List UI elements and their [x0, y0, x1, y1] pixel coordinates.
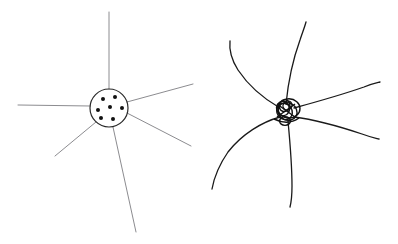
- hub-dot-7: [111, 117, 115, 121]
- figure-root: [0, 0, 398, 244]
- hub-dot-1: [101, 97, 105, 101]
- hub-dot-6: [99, 116, 103, 120]
- hub-dot-4: [108, 105, 112, 109]
- hub-dot-3: [96, 108, 100, 112]
- figure-canvas: [0, 0, 398, 244]
- hub-dot-5: [120, 106, 124, 110]
- hub-dot-2: [113, 95, 117, 99]
- canvas-background: [0, 0, 398, 244]
